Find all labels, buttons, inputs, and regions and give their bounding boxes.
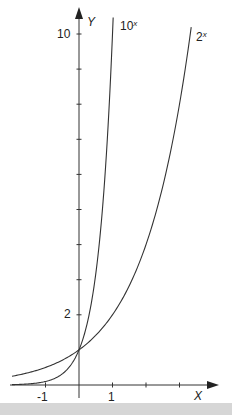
curve-label-10x-base: 10 xyxy=(120,19,133,33)
y-axis-label: Y xyxy=(87,16,95,28)
curve-label-10x: 10x xyxy=(120,20,137,32)
y-tick-label-10: 10 xyxy=(57,28,70,40)
bottom-gray-band xyxy=(0,403,232,415)
curve-label-2x: 2x xyxy=(196,31,207,43)
curve-2x xyxy=(12,27,191,376)
exponential-chart xyxy=(0,0,232,415)
y-tick-label-2: 2 xyxy=(64,308,71,320)
curve-label-10x-exp: x xyxy=(133,19,137,28)
curve-label-2x-exp: x xyxy=(203,30,207,39)
curve-label-2x-base: 2 xyxy=(196,30,203,44)
x-axis-label: X xyxy=(194,390,202,402)
y-axis-arrow-icon xyxy=(75,7,83,19)
curve-10x xyxy=(12,17,113,384)
x-tick-label-neg1: -1 xyxy=(37,391,48,403)
x-tick-label-1: 1 xyxy=(108,391,115,403)
x-axis-arrow-icon xyxy=(207,381,219,389)
